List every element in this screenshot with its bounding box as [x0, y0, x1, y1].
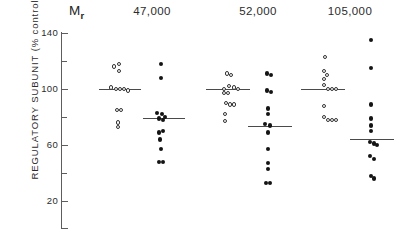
data-point	[322, 104, 327, 109]
data-point	[126, 88, 131, 93]
mean-line-group-52000-control	[206, 89, 250, 90]
data-point	[269, 73, 274, 78]
data-point	[161, 129, 166, 134]
data-point	[159, 76, 164, 81]
data-point	[116, 125, 121, 130]
data-point	[117, 69, 122, 74]
data-point	[269, 90, 274, 95]
data-point	[369, 102, 374, 107]
mean-line-group-105000-control	[301, 89, 345, 90]
data-point	[226, 91, 231, 96]
plot-area	[0, 0, 401, 240]
data-point	[369, 66, 374, 71]
data-point	[334, 87, 339, 92]
chart-figure: REGULATORY SUBUNIT (% control) 140100602…	[0, 0, 401, 240]
data-point	[372, 176, 377, 181]
data-point	[266, 161, 271, 166]
data-point	[223, 119, 228, 124]
data-point	[334, 118, 339, 123]
data-point	[323, 55, 328, 60]
data-point	[161, 160, 166, 165]
data-point	[229, 73, 234, 78]
data-point	[109, 85, 114, 90]
data-point	[158, 137, 163, 142]
data-point	[369, 116, 374, 121]
data-point	[266, 167, 271, 172]
data-point	[268, 181, 273, 186]
data-point	[232, 102, 237, 107]
data-point	[117, 62, 122, 67]
data-point	[369, 129, 374, 134]
data-point	[372, 157, 377, 162]
data-point	[161, 118, 166, 123]
mean-line-group-105000-treated	[350, 139, 394, 140]
data-point	[159, 62, 164, 67]
data-point	[266, 112, 271, 117]
data-point	[119, 108, 124, 113]
data-point	[369, 38, 374, 43]
data-point	[266, 130, 271, 135]
data-point	[268, 123, 273, 128]
data-point	[159, 147, 164, 152]
data-point	[112, 64, 117, 69]
data-point	[266, 106, 271, 111]
data-point	[369, 123, 374, 128]
data-point	[266, 147, 271, 152]
data-point	[236, 87, 241, 92]
data-point	[223, 112, 228, 117]
data-point	[375, 143, 380, 148]
data-point	[322, 77, 327, 82]
data-point	[322, 83, 327, 88]
data-point	[155, 111, 160, 116]
